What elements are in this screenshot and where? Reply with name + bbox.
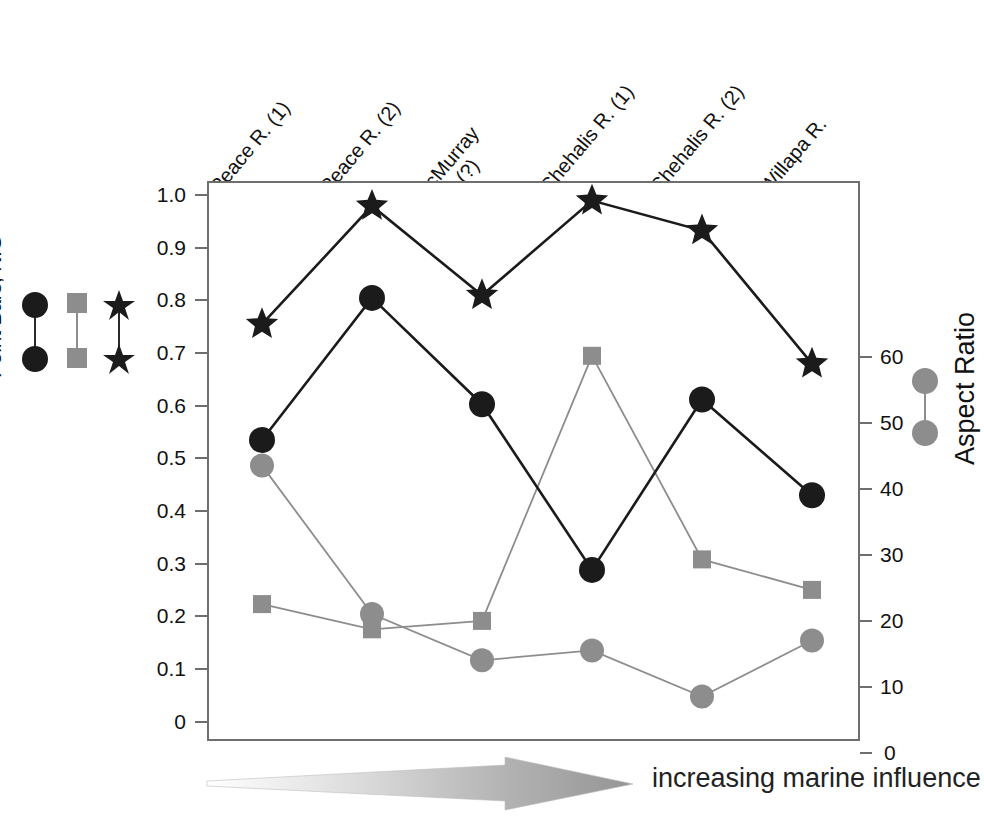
y-axis-left <box>193 181 207 741</box>
y-tick-label-right: 0 <box>884 741 896 765</box>
plot-area <box>207 181 860 741</box>
series-line-0 <box>262 298 812 570</box>
data-point-star <box>466 278 498 309</box>
data-point-circle <box>470 648 494 672</box>
plot-svg <box>209 183 858 739</box>
y-tick-right <box>860 620 872 622</box>
y-tick-label: 0.5 <box>108 446 186 470</box>
chart-root: Shift in N:G Counter Point Bars, N:G Poi… <box>0 0 984 831</box>
legend-symbol-filled-circle <box>18 290 52 374</box>
y-tick-right <box>860 686 872 688</box>
data-point-square <box>583 347 601 365</box>
data-point-star <box>686 214 718 245</box>
x-axis-caption: increasing marine influence <box>652 763 981 794</box>
y-tick-label: 0.6 <box>108 394 186 418</box>
right-axis-legend-dot-bottom <box>912 420 938 446</box>
y-tick <box>195 194 207 196</box>
legend-label: Point Bars, N:G <box>0 98 6 378</box>
data-point-circle <box>689 387 715 413</box>
y-tick-label: 0.1 <box>108 657 186 681</box>
y-tick-label: 0.3 <box>108 552 186 576</box>
series-line-2 <box>262 201 812 364</box>
y-tick <box>195 299 207 301</box>
marine-influence-arrow <box>205 757 635 813</box>
y-tick-label-right: 50 <box>880 411 903 435</box>
data-point-circle <box>579 557 605 583</box>
category-label-4: Chehalis R. (2) <box>646 81 748 197</box>
y-tick <box>195 721 207 723</box>
y-tick-label: 0.4 <box>108 499 186 523</box>
y-axis-right <box>860 181 874 741</box>
y-tick-label-right: 30 <box>880 543 903 567</box>
data-point-circle <box>800 629 824 653</box>
y-tick-label: 0.9 <box>108 236 186 260</box>
y-tick-label: 0.2 <box>108 604 186 628</box>
y-tick <box>195 615 207 617</box>
y-tick <box>195 247 207 249</box>
series-line-3 <box>262 466 812 697</box>
y-tick-label: 0.8 <box>108 288 186 312</box>
data-point-circle <box>799 482 825 508</box>
category-label-3: Chehalis R. (1) <box>536 81 638 197</box>
data-point-circle <box>690 685 714 709</box>
y-tick <box>195 352 207 354</box>
legend-symbol-filled-square <box>60 290 94 374</box>
y-tick <box>195 563 207 565</box>
legend-item-counter-point-bars[interactable]: Counter Point Bars, N:G <box>60 290 94 620</box>
y-tick <box>195 405 207 407</box>
y-tick <box>195 457 207 459</box>
data-point-square <box>693 550 711 568</box>
y-tick <box>195 510 207 512</box>
data-point-circle <box>250 454 274 478</box>
right-axis-title: Aspect Ratio <box>950 312 981 465</box>
y-tick-label-right: 20 <box>880 609 903 633</box>
data-point-circle <box>469 391 495 417</box>
data-point-circle <box>359 285 385 311</box>
data-point-square <box>253 595 271 613</box>
data-point-circle <box>580 638 604 662</box>
y-tick <box>195 668 207 670</box>
y-tick-label: 1.0 <box>108 183 186 207</box>
data-point-square <box>803 581 821 599</box>
right-axis-legend-dot-top <box>912 368 938 394</box>
data-point-square <box>473 612 491 630</box>
series-line-1 <box>262 356 812 630</box>
y-tick-right <box>860 752 872 754</box>
y-tick-right <box>860 356 872 358</box>
y-tick-label-right: 10 <box>880 675 903 699</box>
legend-item-shift-in-ng[interactable]: Shift in N:G <box>18 290 52 620</box>
y-tick-right <box>860 554 872 556</box>
data-point-circle <box>249 427 275 453</box>
y-tick-label: 0 <box>108 710 186 734</box>
y-tick-label-right: 40 <box>880 477 903 501</box>
y-tick-right <box>860 422 872 424</box>
y-tick-label-right: 60 <box>880 345 903 369</box>
data-point-square <box>363 620 381 638</box>
y-tick-right <box>860 488 872 490</box>
y-tick-label: 0.7 <box>108 341 186 365</box>
